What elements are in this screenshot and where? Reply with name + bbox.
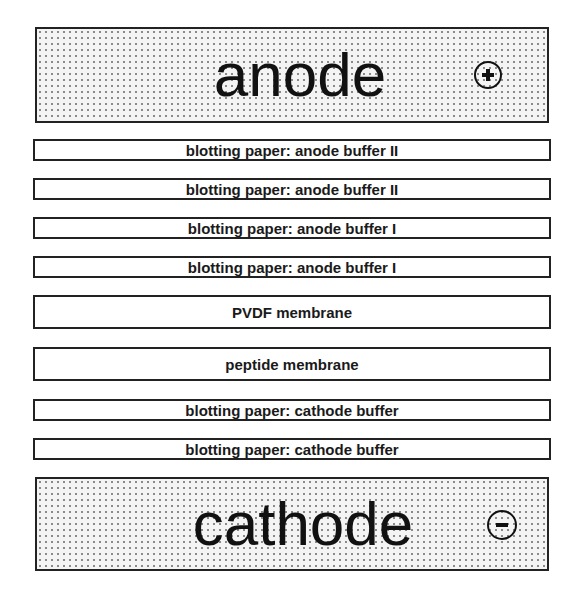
layer-label: PVDF membrane: [232, 304, 352, 321]
anode-buffer-ii-paper-2: blotting paper: anode buffer II: [33, 178, 551, 200]
peptide-membrane: peptide membrane: [33, 347, 551, 381]
layer-label: peptide membrane: [225, 356, 358, 373]
clipped-caption: [35, 592, 549, 599]
cathode-buffer-paper-1: blotting paper: cathode buffer: [33, 399, 551, 421]
cathode-label: cathode: [193, 493, 414, 555]
anode-buffer-i-paper-1: blotting paper: anode buffer I: [33, 217, 551, 239]
layer-label: blotting paper: anode buffer I: [188, 259, 396, 276]
anode-buffer-ii-paper-1: blotting paper: anode buffer II: [33, 139, 551, 161]
layer-label: blotting paper: anode buffer II: [186, 142, 399, 159]
pvdf-membrane: PVDF membrane: [33, 295, 551, 329]
layer-label: blotting paper: cathode buffer: [185, 402, 398, 419]
minus-icon: [487, 510, 517, 540]
anode-buffer-i-paper-2: blotting paper: anode buffer I: [33, 256, 551, 278]
anode-label: anode: [214, 44, 386, 106]
layer-label: blotting paper: anode buffer I: [188, 220, 396, 237]
cathode-buffer-paper-2: blotting paper: cathode buffer: [33, 438, 551, 460]
layer-label: blotting paper: anode buffer II: [186, 181, 399, 198]
plus-icon: [474, 61, 502, 89]
cathode-plate: cathode: [35, 477, 549, 571]
anode-plate: anode: [35, 27, 549, 123]
layer-label: blotting paper: cathode buffer: [185, 441, 398, 458]
